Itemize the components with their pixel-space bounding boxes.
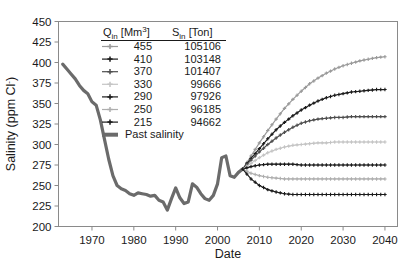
- legend-q-value: 250: [134, 103, 152, 115]
- series-marker: [312, 177, 315, 180]
- series-marker: [287, 162, 290, 165]
- series-marker: [304, 163, 307, 166]
- forecast-series-455: [241, 55, 387, 171]
- series-marker: [337, 193, 340, 196]
- series-marker: [320, 177, 323, 180]
- series-marker: [316, 163, 319, 166]
- series-marker: [383, 55, 386, 58]
- legend-s-value: 101407: [184, 65, 221, 77]
- series-marker: [333, 116, 336, 119]
- forecast-series-layer: [241, 55, 387, 196]
- chart-legend: Qin [Mm3] Sin [Ton] 45510510641010314837…: [101, 25, 226, 140]
- series-marker: [375, 56, 378, 59]
- series-marker: [325, 141, 328, 144]
- series-marker: [337, 177, 340, 180]
- legend-q-value: 455: [134, 40, 152, 52]
- series-marker: [312, 163, 315, 166]
- x-tick-label: 1990: [163, 234, 189, 246]
- series-marker: [362, 115, 365, 118]
- series-marker: [329, 141, 332, 144]
- series-marker: [333, 163, 336, 166]
- series-marker: [375, 163, 378, 166]
- series-marker: [350, 163, 353, 166]
- legend-marker-plus-icon: [107, 44, 112, 49]
- y-tick-label: 400: [32, 57, 51, 69]
- series-marker: [325, 177, 328, 180]
- series-marker: [379, 55, 382, 58]
- series-marker: [308, 163, 311, 166]
- series-marker: [279, 177, 282, 180]
- series-marker: [300, 163, 303, 166]
- y-tick-label: 250: [32, 180, 51, 192]
- forecast-series-410: [241, 88, 387, 171]
- series-marker: [333, 177, 336, 180]
- series-marker: [333, 193, 336, 196]
- legend-row-410[interactable]: 410103148: [102, 53, 221, 65]
- series-marker: [375, 140, 378, 143]
- series-marker: [274, 176, 277, 179]
- series-marker: [350, 193, 353, 196]
- series-marker: [308, 119, 311, 122]
- series-marker: [329, 116, 332, 119]
- series-marker: [362, 193, 365, 196]
- series-marker: [312, 193, 315, 196]
- series-marker: [371, 140, 374, 143]
- series-marker: [371, 177, 374, 180]
- series-marker: [383, 115, 386, 118]
- series-marker: [312, 142, 315, 145]
- series-marker: [279, 162, 282, 165]
- series-marker: [300, 193, 303, 196]
- series-marker: [279, 191, 282, 194]
- legend-row-215[interactable]: 21594662: [102, 116, 221, 128]
- series-marker: [367, 115, 370, 118]
- series-marker: [367, 177, 370, 180]
- series-marker: [283, 177, 286, 180]
- series-marker: [358, 140, 361, 143]
- series-marker: [325, 117, 328, 120]
- series-marker: [325, 163, 328, 166]
- legend-q-value: 215: [134, 116, 152, 128]
- series-marker: [358, 163, 361, 166]
- series-marker: [291, 162, 294, 165]
- series-marker: [266, 176, 269, 179]
- legend-row-370[interactable]: 370101407: [102, 65, 221, 77]
- series-marker: [287, 192, 290, 195]
- series-marker: [383, 88, 386, 91]
- series-marker: [270, 149, 273, 152]
- series-marker: [287, 177, 290, 180]
- legend-header-s: Sin [Ton]: [172, 26, 213, 41]
- series-marker: [333, 94, 336, 97]
- legend-row-past-salinity[interactable]: Past salinity: [102, 128, 184, 140]
- forecast-series-215: [241, 167, 387, 196]
- series-marker: [362, 140, 365, 143]
- legend-row-250[interactable]: 25096185: [102, 103, 221, 115]
- series-marker: [254, 164, 257, 167]
- series-marker: [367, 163, 370, 166]
- chart-svg: 200225250275300325350375400425450 197019…: [0, 0, 411, 264]
- series-marker: [270, 162, 273, 165]
- series-marker: [367, 58, 370, 61]
- forecast-line: [243, 169, 385, 194]
- series-marker: [354, 140, 357, 143]
- series-marker: [367, 140, 370, 143]
- legend-marker-plus-icon: [107, 57, 112, 62]
- series-marker: [312, 118, 315, 121]
- y-tick-label: 450: [32, 16, 51, 28]
- series-marker: [320, 117, 323, 120]
- legend-marker-plus-icon: [107, 94, 112, 99]
- series-marker: [341, 92, 344, 95]
- series-marker: [300, 143, 303, 146]
- series-marker: [325, 96, 328, 99]
- x-axis-ticks: 19701980199020002010202020302040: [79, 227, 398, 246]
- series-marker: [274, 162, 277, 165]
- series-marker: [379, 88, 382, 91]
- series-marker: [329, 177, 332, 180]
- legend-row-455[interactable]: 455105106: [102, 40, 221, 52]
- x-tick-label: 2010: [247, 234, 273, 246]
- legend-row-290[interactable]: 29097926: [102, 90, 221, 102]
- series-marker: [358, 193, 361, 196]
- series-marker: [383, 193, 386, 196]
- legend-row-330[interactable]: 33099666: [102, 78, 221, 90]
- series-marker: [375, 115, 378, 118]
- legend-s-value: 94662: [190, 116, 221, 128]
